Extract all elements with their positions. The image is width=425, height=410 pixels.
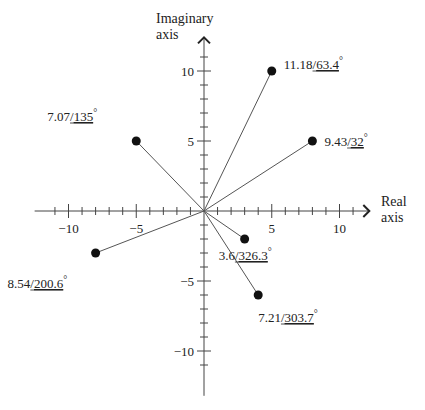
phasor-label: 7.07/135° — [47, 107, 97, 124]
phasor-angle: 303.7 — [285, 310, 315, 325]
phasor-line — [204, 211, 245, 239]
phasor-line — [136, 141, 204, 211]
phasor-magnitude: 9.43 — [324, 134, 347, 149]
phasor-point — [308, 137, 317, 146]
phasor-diagram: −10−5510105−5−10ImaginaryaxisRealaxis11.… — [0, 0, 425, 410]
phasor-magnitude: 11.18 — [284, 57, 313, 72]
phasor-label: 8.54/200.6° — [8, 274, 68, 291]
phasor-magnitude: 3.6 — [219, 248, 236, 263]
y-tick-label: −5 — [180, 274, 194, 289]
x-tick-label: −10 — [58, 221, 78, 236]
phasor-angle: 200.6 — [34, 276, 64, 291]
real-axis-title: axis — [381, 210, 404, 225]
degree-symbol: ° — [314, 308, 318, 319]
phasor-point — [267, 67, 276, 76]
phasor-label: 7.21/303.7° — [258, 308, 318, 325]
real-axis-title: Real — [381, 194, 407, 209]
imaginary-axis-title: axis — [156, 27, 179, 42]
phasor-angle: 63.4 — [316, 57, 339, 72]
axes — [35, 37, 370, 395]
y-tick-label: 10 — [181, 64, 194, 79]
x-tick-label: 5 — [269, 221, 276, 236]
phasor-point — [254, 291, 263, 300]
phasor-angle: 135 — [74, 109, 94, 124]
phasor-point — [91, 249, 100, 258]
degree-symbol: ° — [268, 246, 272, 257]
phasor-point — [132, 137, 141, 146]
phasor-label: 3.6/326.3° — [219, 246, 272, 263]
phasor-label: 9.43/32° — [324, 132, 367, 149]
phasor-line — [96, 211, 204, 253]
phasor-magnitude: 7.21 — [258, 310, 281, 325]
phasor-label: 11.18/63.4° — [284, 55, 343, 72]
phasor-magnitude: 8.54 — [8, 276, 31, 291]
degree-symbol: ° — [364, 132, 368, 143]
x-tick-label: −5 — [129, 221, 143, 236]
y-tick-label: −10 — [174, 344, 194, 359]
degree-symbol: ° — [93, 107, 97, 118]
phasor-point — [240, 235, 249, 244]
x-tick-label: 10 — [333, 221, 346, 236]
phasor-line — [204, 141, 312, 211]
labels: −10−5510105−5−10ImaginaryaxisRealaxis11.… — [8, 11, 407, 359]
degree-symbol: ° — [339, 55, 343, 66]
phasor-magnitude: 7.07 — [47, 109, 70, 124]
phasor-angle: 32 — [351, 134, 364, 149]
imaginary-axis-title: Imaginary — [156, 11, 214, 26]
degree-symbol: ° — [63, 274, 67, 285]
phasor-line — [204, 71, 272, 211]
phasor-angle: 326.3 — [239, 248, 268, 263]
y-tick-label: 5 — [188, 134, 195, 149]
